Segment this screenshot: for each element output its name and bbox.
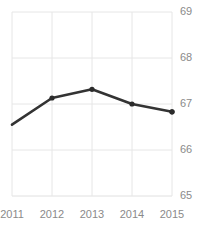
y-tick-label-69: 69 — [180, 6, 202, 17]
data-point-2011 — [49, 95, 54, 100]
x-tick-label-2015: 2015 — [152, 208, 192, 220]
data-point-2012 — [89, 87, 94, 92]
x-tick-label-2013: 2013 — [72, 208, 112, 220]
data-point-markers — [49, 87, 174, 115]
y-tick-label-68: 68 — [180, 52, 202, 63]
plot-area — [0, 0, 202, 226]
data-point-2013 — [129, 101, 134, 106]
x-tick-label-2011: 2011 — [0, 208, 32, 220]
line-chart: Freedom Trend 69 68 — [0, 0, 202, 226]
x-tick-label-2014: 2014 — [112, 208, 152, 220]
data-point-2015 — [169, 109, 174, 114]
x-tick-label-2012: 2012 — [32, 208, 72, 220]
y-tick-label-65: 65 — [180, 190, 202, 201]
y-tick-label-66: 66 — [180, 144, 202, 155]
y-tick-label-67: 67 — [180, 98, 202, 109]
